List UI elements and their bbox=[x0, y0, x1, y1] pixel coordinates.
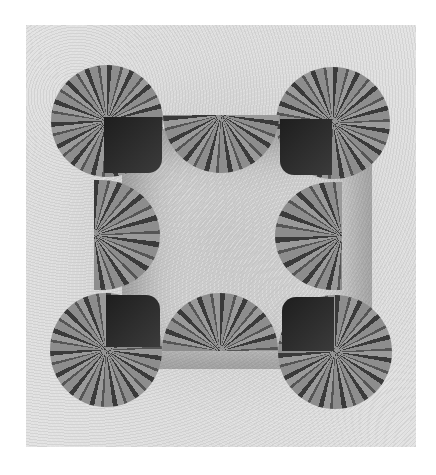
melon-top-right-cut bbox=[280, 119, 332, 175]
melon-bottom-right-cut bbox=[282, 297, 334, 351]
melon-bottom-left-cut bbox=[106, 295, 160, 347]
melon-top-left-cut bbox=[104, 117, 162, 173]
watermelon-photo: Watermelons arranged in a square bbox=[26, 25, 416, 447]
